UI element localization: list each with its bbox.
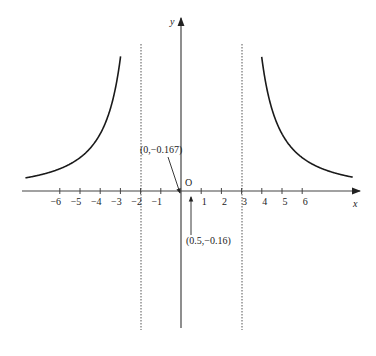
curves [25, 56, 352, 178]
annotation-y-intercept: (0,−0.167) [140, 144, 182, 156]
x-axis-label: x [352, 198, 358, 209]
x-tick-label: 1 [202, 196, 207, 207]
x-tick-label: 4 [262, 196, 267, 207]
annotation-local-max: (0.5,−0.16) [186, 235, 231, 247]
x-tick-label: 2 [222, 196, 227, 207]
annotation-arrow-y-intercept [168, 157, 180, 193]
origin-label: O [185, 177, 192, 188]
x-tick-label: −1 [151, 196, 162, 207]
x-tick-label: 3 [242, 196, 247, 207]
x-tick-label: −5 [71, 196, 82, 207]
x-tick-label: −3 [111, 196, 122, 207]
x-tick-label: −2 [131, 196, 142, 207]
curve-right-branch [262, 57, 353, 177]
x-tick-label: −6 [50, 196, 61, 207]
y-axis-label: y [169, 16, 175, 27]
x-tick-label: 6 [303, 196, 308, 207]
curve-left-branch [25, 56, 120, 178]
function-graph: −6−5−4−3−2−1123456 y x O (0,−0.167) (0.5… [0, 0, 376, 356]
x-tick-label: 5 [283, 196, 288, 207]
x-tick-label: −4 [91, 196, 102, 207]
